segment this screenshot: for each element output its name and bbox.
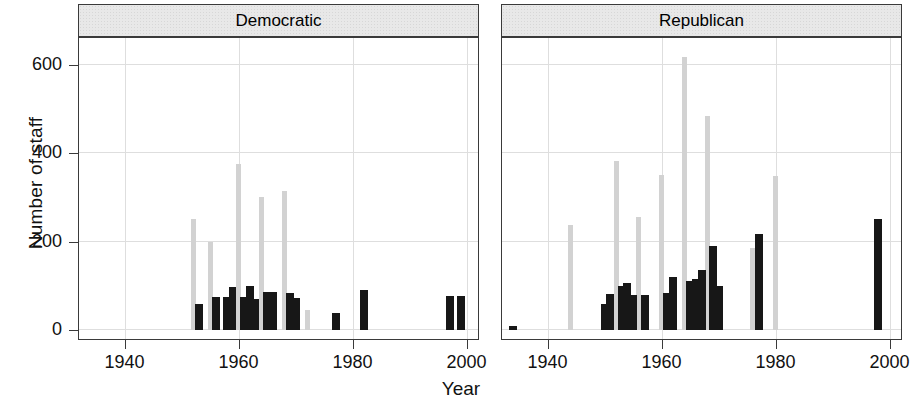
x-tick-mark	[125, 340, 126, 349]
bar	[715, 286, 723, 330]
gridline-horizontal	[79, 64, 478, 65]
bar	[669, 277, 677, 330]
gridline-horizontal	[502, 64, 901, 65]
bar	[332, 313, 340, 330]
bar	[195, 304, 203, 330]
x-tick-label: 1980	[748, 352, 804, 373]
y-tick-mark	[69, 330, 78, 331]
x-tick-mark	[662, 340, 663, 349]
bar	[446, 296, 454, 331]
gridline-horizontal	[502, 241, 901, 242]
x-tick-mark	[548, 340, 549, 349]
bar	[292, 298, 300, 330]
plot-area-democratic	[78, 37, 479, 340]
gridline-horizontal	[79, 329, 478, 330]
y-tick-label: 600	[6, 54, 62, 75]
bar	[509, 326, 517, 330]
panel-democratic: Democratic 1940196019802000	[78, 4, 479, 340]
panel-strip-label: Republican	[659, 11, 744, 31]
x-tick-label: 1980	[325, 352, 381, 373]
gridline-horizontal	[79, 241, 478, 242]
x-tick-mark	[467, 340, 468, 349]
bar	[629, 295, 637, 330]
x-tick-label: 1960	[211, 352, 267, 373]
x-tick-mark	[239, 340, 240, 349]
panel-republican: Republican 1940196019802000	[501, 4, 902, 340]
gridline-vertical	[548, 38, 549, 339]
y-tick-label: 400	[6, 142, 62, 163]
bar	[568, 225, 573, 330]
x-tick-mark	[353, 340, 354, 349]
x-axis-label: Year	[0, 378, 922, 400]
x-tick-label: 2000	[439, 352, 495, 373]
bar	[755, 234, 763, 331]
bar	[698, 270, 706, 331]
panel-strip-democratic: Democratic	[78, 4, 479, 37]
gridline-horizontal	[502, 152, 901, 153]
y-tick-label: 200	[6, 231, 62, 252]
y-tick-mark	[69, 153, 78, 154]
gridline-vertical	[467, 38, 468, 339]
y-tick-mark	[69, 65, 78, 66]
gridline-horizontal	[79, 152, 478, 153]
gridline-vertical	[353, 38, 354, 339]
plot-area-republican	[501, 37, 902, 340]
y-tick-mark	[69, 242, 78, 243]
x-tick-mark	[776, 340, 777, 349]
bar	[360, 290, 368, 330]
bar	[874, 219, 882, 330]
bar	[457, 296, 465, 331]
bar	[641, 295, 649, 330]
x-tick-label: 2000	[862, 352, 918, 373]
bar	[212, 297, 220, 330]
y-tick-label: 0	[6, 319, 62, 340]
x-tick-mark	[890, 340, 891, 349]
chart-root: Number of staff Year 0200400600 Democrat…	[0, 0, 922, 404]
x-tick-label: 1960	[634, 352, 690, 373]
gridline-vertical	[125, 38, 126, 339]
bar	[305, 310, 310, 330]
panel-strip-label: Democratic	[236, 11, 322, 31]
x-tick-label: 1940	[97, 352, 153, 373]
bar	[773, 176, 778, 330]
gridline-vertical	[890, 38, 891, 339]
panel-strip-republican: Republican	[501, 4, 902, 37]
bar	[269, 292, 277, 330]
x-tick-label: 1940	[520, 352, 576, 373]
